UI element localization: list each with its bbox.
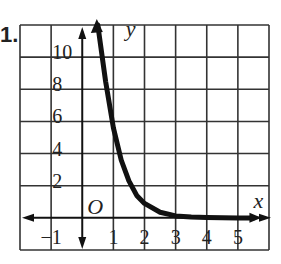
x-tick-label: 5 xyxy=(233,226,243,248)
curve-arrow-icon xyxy=(91,19,103,33)
origin-label: O xyxy=(87,194,103,219)
x-tick-label: 1 xyxy=(108,226,118,248)
y-tick-label: 10 xyxy=(52,41,72,63)
x-axis-label: x xyxy=(252,188,263,213)
y-tick-label: 4 xyxy=(52,138,62,160)
chart-plot: −112345246810yxO xyxy=(0,0,281,264)
y-tick-label: 8 xyxy=(52,73,62,95)
x-tick-label: 2 xyxy=(140,226,150,248)
y-axis-down-arrow-icon xyxy=(78,237,86,249)
y-axis-label: y xyxy=(124,16,136,41)
x-tick-label: 3 xyxy=(171,226,181,248)
x-tick-label: 4 xyxy=(202,226,212,248)
y-tick-label: 6 xyxy=(52,105,62,127)
x-tick-label: −1 xyxy=(40,226,61,248)
y-tick-label: 2 xyxy=(52,170,62,192)
x-axis-left-arrow-icon xyxy=(22,214,34,222)
y-axis-up-arrow-icon xyxy=(78,27,86,39)
